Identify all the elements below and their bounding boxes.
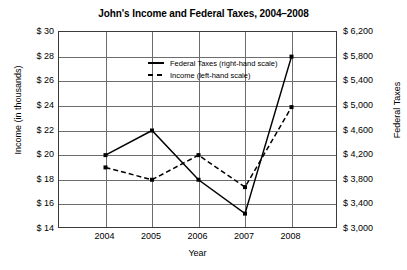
y-axis-right-tick-label: $ 5,000 <box>343 100 373 110</box>
data-point-marker <box>104 153 108 157</box>
y-axis-right-tick-label: $ 4,600 <box>343 125 373 135</box>
data-point-marker <box>243 185 247 189</box>
chart-legend: Federal Taxes (right-hand scale) Income … <box>147 57 277 81</box>
y-axis-left-ticks: $ 30$ 28$ 26$ 24$ 22$ 20$ 18$ 16$ 14 <box>0 31 54 228</box>
x-axis-tick-label: 2005 <box>141 231 161 241</box>
y-axis-left-tick-label: $ 28 <box>36 51 54 61</box>
series-line-income <box>106 107 292 187</box>
data-point-marker <box>197 178 201 182</box>
x-axis-ticks: 20042005200620072008 <box>58 231 337 245</box>
chart-title: John's Income and Federal Taxes, 2004–20… <box>0 8 407 19</box>
data-point-marker <box>150 129 154 133</box>
x-axis-tick-label: 2007 <box>234 231 254 241</box>
y-axis-right-tick-label: $ 5,800 <box>343 51 373 61</box>
y-axis-right-tick-label: $ 3,800 <box>343 174 373 184</box>
legend-item-income: Income (left-hand scale) <box>147 69 277 81</box>
data-point-marker <box>290 105 294 109</box>
x-axis-tick-label: 2006 <box>187 231 207 241</box>
x-axis-title: Year <box>58 248 337 258</box>
y-axis-left-tick-label: $ 26 <box>36 75 54 85</box>
data-point-marker <box>150 178 154 182</box>
y-axis-right-tick-label: $ 4,200 <box>343 149 373 159</box>
y-axis-right-ticks: $ 6,200$ 5,800$ 5,400$ 5,000$ 4,600$ 4,2… <box>343 31 403 228</box>
y-axis-right-tick-label: $ 3,400 <box>343 198 373 208</box>
y-axis-left-tick-label: $ 30 <box>36 26 54 36</box>
legend-item-federal-taxes: Federal Taxes (right-hand scale) <box>147 57 277 69</box>
data-point-marker <box>243 212 247 216</box>
legend-line-solid-icon <box>147 59 165 67</box>
y-axis-left-tick-label: $ 16 <box>36 198 54 208</box>
y-axis-right-tick-label: $ 5,400 <box>343 75 373 85</box>
chart-figure: John's Income and Federal Taxes, 2004–20… <box>0 0 407 270</box>
y-axis-right-tick-label: $ 6,200 <box>343 26 373 36</box>
legend-label-federal-taxes: Federal Taxes (right-hand scale) <box>170 59 277 68</box>
y-axis-left-tick-label: $ 20 <box>36 149 54 159</box>
legend-label-income: Income (left-hand scale) <box>170 71 250 80</box>
x-axis-tick-label: 2008 <box>280 231 300 241</box>
data-point-marker <box>290 55 294 59</box>
y-axis-left-tick-label: $ 18 <box>36 174 54 184</box>
plot-area: Federal Taxes (right-hand scale) Income … <box>58 31 337 228</box>
data-point-marker <box>197 153 201 157</box>
data-point-marker <box>104 165 108 169</box>
y-axis-left-tick-label: $ 24 <box>36 100 54 110</box>
x-axis-tick-label: 2004 <box>94 231 114 241</box>
y-axis-left-tick-label: $ 22 <box>36 125 54 135</box>
legend-line-dashed-icon <box>147 71 165 79</box>
y-axis-right-tick-label: $ 3,000 <box>343 223 373 233</box>
y-axis-left-tick-label: $ 14 <box>36 223 54 233</box>
